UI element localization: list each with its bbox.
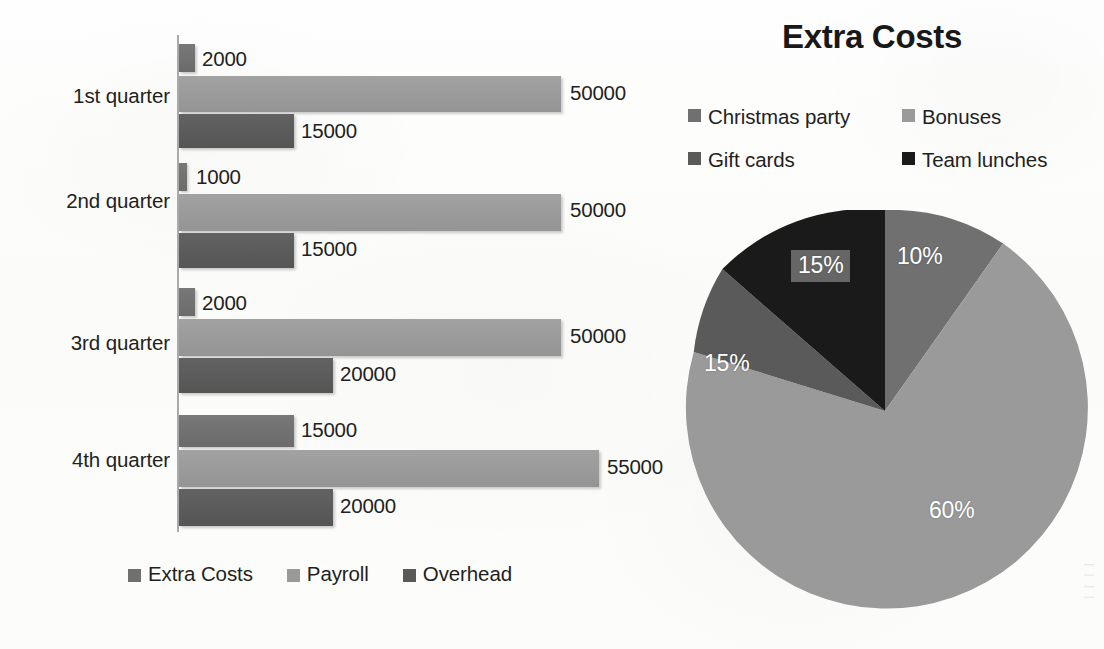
bar-value-q4-extra-costs: 15000	[301, 418, 357, 442]
bar-value-q3-payroll: 50000	[570, 324, 626, 348]
legend-swatch-icon-team-lunches	[902, 152, 915, 165]
bar-q2-payroll[interactable]	[179, 194, 561, 231]
bar-legend-label-overhead: Overhead	[423, 562, 512, 586]
legend-swatch-icon-bonuses	[902, 109, 915, 122]
bar-q1-overhead[interactable]	[179, 114, 294, 148]
pie-percent-label-team-lunches: 15%	[791, 250, 850, 282]
pie-legend-label-team-lunches: Team lunches	[922, 148, 1047, 172]
bar-category-label-3: 3rd quarter	[71, 331, 170, 355]
bar-value-q3-extra-costs: 2000	[202, 291, 247, 315]
pie-percent-label-gift-cards: 15%	[704, 350, 749, 377]
bar-q3-payroll[interactable]	[179, 319, 561, 356]
pie-percent-label-bonuses: 60%	[929, 497, 974, 524]
bar-value-q2-overhead: 15000	[301, 237, 357, 261]
legend-swatch-icon-extra-costs	[128, 569, 141, 582]
bar-q1-extra-costs[interactable]	[179, 44, 195, 72]
bar-value-q1-overhead: 15000	[301, 119, 357, 143]
bar-legend-label-payroll: Payroll	[307, 562, 369, 586]
bar-value-q2-extra-costs: 1000	[196, 165, 241, 189]
legend-swatch-icon-christmas-party	[688, 109, 701, 122]
bar-value-q1-extra-costs: 2000	[202, 47, 247, 71]
pie-legend-item-bonuses[interactable]: Bonuses	[902, 105, 1058, 129]
legend-swatch-icon-payroll	[287, 569, 300, 582]
pie-percent-label-christmas-party: 10%	[897, 243, 942, 270]
pie-chart-legend: Christmas party Bonuses Gift cards Team …	[688, 105, 1058, 172]
bar-category-label-4: 4th quarter	[72, 448, 170, 472]
quarterly-costs-bar-chart: 1st quarter 2nd quarter 3rd quarter 4th …	[0, 0, 640, 649]
bar-chart-legend: Extra Costs Payroll Overhead	[0, 562, 640, 586]
bar-q2-extra-costs[interactable]	[179, 163, 187, 191]
bar-value-q4-overhead: 20000	[340, 494, 396, 518]
bar-q3-overhead[interactable]	[179, 358, 333, 393]
bar-category-label-2: 2nd quarter	[66, 189, 170, 213]
legend-swatch-icon-overhead	[403, 569, 416, 582]
extra-costs-pie-chart: Extra Costs Christmas party Bonuses Gift…	[640, 0, 1104, 649]
pie-chart-title: Extra Costs	[640, 18, 1104, 56]
bar-legend-label-extra-costs: Extra Costs	[148, 562, 253, 586]
pie-legend-label-gift-cards: Gift cards	[708, 148, 795, 172]
bar-value-q1-payroll: 50000	[570, 81, 626, 105]
pie-legend-label-bonuses: Bonuses	[922, 105, 1001, 129]
bar-value-q2-payroll: 50000	[570, 198, 626, 222]
bar-q1-payroll[interactable]	[179, 76, 561, 112]
pie-legend-label-christmas-party: Christmas party	[708, 105, 850, 129]
bar-value-q3-overhead: 20000	[340, 362, 396, 386]
bar-q3-extra-costs[interactable]	[179, 288, 195, 316]
pie-slices-graphic	[644, 210, 1104, 620]
bar-q4-extra-costs[interactable]	[179, 415, 294, 447]
bar-q4-overhead[interactable]	[179, 489, 333, 526]
bar-q4-payroll[interactable]	[179, 450, 599, 487]
bar-legend-item-payroll[interactable]: Payroll	[287, 562, 369, 586]
bar-legend-item-overhead[interactable]: Overhead	[403, 562, 512, 586]
pie-legend-item-team-lunches[interactable]: Team lunches	[902, 148, 1058, 172]
legend-swatch-icon-gift-cards	[688, 152, 701, 165]
chart-sheet: 1st quarter 2nd quarter 3rd quarter 4th …	[0, 0, 1104, 649]
pie-legend-item-gift-cards[interactable]: Gift cards	[688, 148, 902, 172]
bar-q2-overhead[interactable]	[179, 233, 294, 268]
bar-legend-item-extra-costs[interactable]: Extra Costs	[128, 562, 253, 586]
pie-legend-item-christmas-party[interactable]: Christmas party	[688, 105, 902, 129]
bar-category-label-1: 1st quarter	[73, 84, 170, 108]
